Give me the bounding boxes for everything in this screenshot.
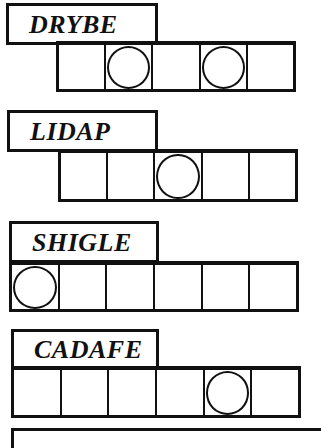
answer-grid-3 [9,261,299,312]
answer-cell-circled[interactable] [106,45,153,89]
scrambled-word-1: DRYBE [29,10,118,40]
answer-cell[interactable] [250,265,296,309]
answer-cell[interactable] [252,370,298,415]
answer-cell[interactable] [157,370,205,415]
answer-cell[interactable] [59,45,106,89]
answer-cell[interactable] [203,265,251,309]
answer-cell[interactable] [61,153,108,199]
answer-cell-circled[interactable] [155,153,202,199]
answer-cell[interactable] [62,370,110,415]
answer-cell[interactable] [107,265,155,309]
answer-cell-circled[interactable] [205,370,253,415]
answer-cell[interactable] [153,45,200,89]
answer-cell-circled[interactable] [201,45,248,89]
answer-cell[interactable] [14,370,62,415]
answer-cell[interactable] [108,153,155,199]
scrambled-word-4: CADAFE [34,335,143,365]
answer-cell[interactable] [155,265,203,309]
scrambled-word-2: LIDAP [30,117,111,147]
scrambled-word-label-4: CADAFE [11,329,159,369]
answer-grid-4 [11,366,301,418]
answer-cell-circled[interactable] [12,265,60,309]
answer-cell[interactable] [60,265,108,309]
answer-cell[interactable] [203,153,250,199]
answer-grid-2 [58,149,298,202]
scrambled-word-label-2: LIDAP [7,110,158,152]
final-answer-box [11,428,321,448]
answer-cell[interactable] [248,45,293,89]
scrambled-word-label-3: SHIGLE [9,221,159,263]
answer-cell[interactable] [250,153,295,199]
scrambled-word-3: SHIGLE [32,228,132,258]
answer-cell[interactable] [109,370,157,415]
scrambled-word-label-1: DRYBE [6,3,158,45]
answer-grid-1 [56,41,296,92]
